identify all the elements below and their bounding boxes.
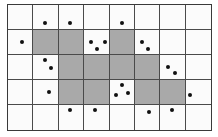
- empty-cell: [135, 105, 160, 130]
- shaded-cell: [135, 80, 160, 105]
- shaded-cell: [160, 80, 185, 105]
- dot-marker: [95, 47, 99, 51]
- empty-cell: [8, 80, 33, 105]
- empty-cell: [8, 105, 33, 130]
- dot-marker: [140, 40, 144, 44]
- empty-cell: [59, 5, 84, 30]
- grid-board: [7, 4, 212, 131]
- shaded-cell: [110, 30, 135, 55]
- dot-marker: [120, 21, 124, 25]
- empty-cell: [186, 55, 211, 80]
- dot-marker: [114, 93, 118, 97]
- shaded-cell: [135, 55, 160, 80]
- dot-marker: [173, 71, 177, 75]
- dot-marker: [126, 91, 130, 95]
- dot-marker: [170, 108, 174, 112]
- dot-marker: [89, 40, 93, 44]
- empty-cell: [8, 55, 33, 80]
- dot-marker: [49, 66, 53, 70]
- dot-marker: [120, 83, 124, 87]
- dot-marker: [166, 65, 170, 69]
- empty-cell: [33, 80, 58, 105]
- empty-cell: [186, 105, 211, 130]
- shaded-cell: [59, 80, 84, 105]
- empty-cell: [110, 5, 135, 30]
- dot-marker: [47, 90, 51, 94]
- shaded-cell: [33, 30, 58, 55]
- empty-cell: [33, 105, 58, 130]
- shaded-cell: [110, 55, 135, 80]
- dot-marker: [147, 110, 151, 114]
- dot-marker: [68, 21, 72, 25]
- empty-cell: [33, 5, 58, 30]
- shaded-cell: [84, 80, 109, 105]
- dot-marker: [188, 93, 192, 97]
- shaded-cell: [59, 30, 84, 55]
- empty-cell: [160, 55, 185, 80]
- dot-marker: [43, 58, 47, 62]
- dot-marker: [43, 21, 47, 25]
- empty-cell: [8, 5, 33, 30]
- shaded-cell: [84, 55, 109, 80]
- empty-cell: [84, 5, 109, 30]
- shaded-cell: [59, 55, 84, 80]
- empty-cell: [160, 30, 185, 55]
- dot-marker: [20, 40, 24, 44]
- empty-cell: [186, 30, 211, 55]
- empty-cell: [135, 5, 160, 30]
- dot-marker: [146, 47, 150, 51]
- empty-cell: [110, 105, 135, 130]
- dot-marker: [93, 108, 97, 112]
- empty-cell: [160, 5, 185, 30]
- empty-cell: [135, 30, 160, 55]
- empty-cell: [186, 5, 211, 30]
- dot-marker: [103, 40, 107, 44]
- dot-marker: [68, 108, 72, 112]
